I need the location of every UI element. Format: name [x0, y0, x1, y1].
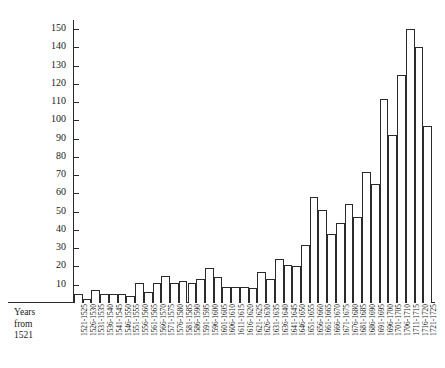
- bar: [318, 210, 327, 303]
- bar: [214, 277, 223, 303]
- bar: [406, 29, 415, 303]
- bar: [371, 184, 380, 303]
- bar: [161, 276, 170, 303]
- x-axis-caption-line3: 1521: [14, 330, 72, 342]
- bar: [91, 290, 100, 303]
- bar: [100, 294, 109, 303]
- histogram-figure: Number of titles 10203040506070809010011…: [0, 0, 445, 368]
- y-tick-label: 10: [36, 278, 66, 290]
- x-tick-label: 1711-1715: [413, 304, 421, 360]
- bar: [179, 281, 188, 303]
- bar: [301, 245, 310, 303]
- x-axis-caption-line1: Years: [14, 307, 72, 319]
- y-tick-label: 80: [36, 150, 66, 162]
- bar: [266, 279, 275, 303]
- bar: [144, 292, 153, 303]
- bar: [380, 99, 389, 303]
- bar: [423, 126, 432, 303]
- y-tick-label: 70: [36, 168, 66, 180]
- bar: [153, 283, 162, 303]
- y-tick-label: 50: [36, 205, 66, 217]
- bar: [415, 47, 424, 303]
- bar: [249, 288, 258, 303]
- bar: [257, 272, 266, 303]
- bar: [118, 294, 127, 303]
- x-axis-labels: 1521-15251526-15301531-15351536-15401541…: [74, 304, 432, 364]
- bar: [188, 283, 197, 303]
- bar: [74, 294, 83, 303]
- y-tick-label: 120: [36, 77, 66, 89]
- bar: [231, 287, 240, 303]
- x-tick-label: 1561-1565: [151, 304, 159, 360]
- bar: [397, 75, 406, 303]
- y-tick-label: 100: [36, 113, 66, 125]
- y-tick-label: 110: [36, 95, 66, 107]
- x-tick-label: 1721-1725: [430, 304, 438, 360]
- bar: [126, 296, 135, 303]
- x-axis-caption: Years from 1521: [10, 303, 72, 351]
- y-axis-title: Number of titles: [8, 0, 30, 68]
- y-tick-label: 140: [36, 40, 66, 52]
- bar: [275, 259, 284, 303]
- y-tick-label: 20: [36, 259, 66, 271]
- bar: [345, 204, 354, 303]
- bars-container: [74, 20, 432, 303]
- y-tick-label: 150: [36, 22, 66, 34]
- bar: [362, 172, 371, 303]
- bar: [170, 283, 179, 303]
- x-tick-label: 1636-1640: [282, 304, 290, 360]
- y-tick-label: 60: [36, 186, 66, 198]
- bar: [222, 287, 231, 303]
- bar: [327, 234, 336, 303]
- bar: [284, 265, 293, 303]
- bar: [292, 266, 301, 303]
- bar: [388, 135, 397, 303]
- y-tick-label: 40: [36, 223, 66, 235]
- bar: [205, 268, 214, 303]
- y-tick-label: 130: [36, 59, 66, 71]
- y-tick-label: 30: [36, 241, 66, 253]
- bar: [109, 294, 118, 303]
- bar: [83, 299, 92, 303]
- y-tick-label: 90: [36, 132, 66, 144]
- bar: [310, 197, 319, 303]
- x-axis-caption-line2: from: [14, 319, 72, 331]
- bar: [240, 287, 249, 303]
- bar: [336, 223, 345, 303]
- x-tick-label: 1691-1695: [378, 304, 386, 360]
- bar: [135, 283, 144, 303]
- bar: [196, 279, 205, 303]
- bar: [353, 217, 362, 303]
